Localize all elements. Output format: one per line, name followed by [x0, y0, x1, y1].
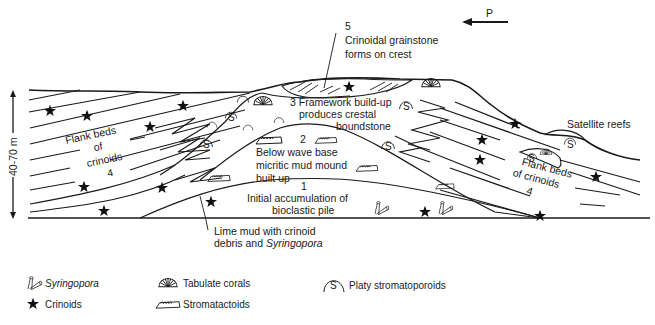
legend-item-syringopora: Syringopora	[28, 277, 99, 290]
svg-text:S: S	[567, 139, 574, 150]
svg-text:produces crestal: produces crestal	[299, 108, 376, 120]
stromatactoid-icon	[156, 302, 180, 308]
svg-text:Below wave base: Below wave base	[256, 146, 338, 158]
legend-item-stromatactoids: Stromatactoids	[156, 299, 250, 310]
svg-text:2: 2	[300, 133, 306, 145]
lime-mud-label: Lime mud with crinoid debris and Syringo…	[214, 225, 323, 249]
svg-text:crinoids: crinoids	[86, 150, 124, 169]
left-flank-beds	[29, 90, 250, 212]
svg-text:S: S	[385, 141, 392, 152]
svg-text:4: 4	[525, 184, 534, 197]
paleocurrent-arrow: P	[462, 7, 508, 26]
paleocurrent-label: P	[486, 7, 493, 19]
svg-text:5: 5	[345, 20, 351, 32]
crinoid-star-icon	[27, 298, 39, 309]
tabulate-coral-icon	[159, 278, 177, 286]
legend-item-crinoids: Crinoids	[27, 298, 82, 310]
stage-2-label: 2 Below wave base micritic mud mound bui…	[256, 133, 347, 184]
svg-text:Stromatactoids: Stromatactoids	[183, 299, 250, 310]
svg-text:built up: built up	[256, 172, 290, 184]
svg-text:of: of	[92, 140, 103, 154]
legend-item-tabulate-corals: Tabulate corals	[159, 278, 250, 289]
svg-text:S: S	[203, 139, 210, 150]
svg-text:4: 4	[106, 166, 114, 179]
legend-item-platy-stromatoporoids: S Platy stromatoporoids	[324, 280, 446, 292]
svg-text:Initial accumulation of: Initial accumulation of	[247, 192, 348, 204]
svg-text:Tabulate corals: Tabulate corals	[183, 278, 250, 289]
svg-text:forms on crest: forms on crest	[345, 48, 412, 60]
svg-text:S: S	[228, 112, 235, 123]
svg-text:debris and Syringopora: debris and Syringopora	[214, 237, 323, 249]
svg-text:Crinoidal grainstone: Crinoidal grainstone	[345, 34, 439, 46]
reef-cross-section-diagram: P 40-70 m	[0, 0, 655, 325]
stage-5-label: 5 Crinoidal grainstone forms on crest	[345, 20, 439, 60]
satellite-reefs-label: Satellite reefs	[567, 118, 631, 130]
svg-text:Lime mud with crinoid: Lime mud with crinoid	[214, 225, 316, 237]
svg-text:boundstone: boundstone	[336, 120, 391, 132]
syringopora-icon	[28, 277, 42, 290]
svg-text:S: S	[330, 280, 337, 291]
stage-3-label: 3 Framework build-up produces crestal bo…	[290, 96, 392, 132]
scale-bar: 40-70 m	[5, 90, 21, 219]
legend: Syringopora Crinoids Tabulate corals Str…	[27, 277, 446, 310]
left-flank-label: Flank beds of crinoids 4	[64, 123, 126, 186]
svg-text:bioclastic pile: bioclastic pile	[272, 204, 335, 216]
svg-text:1: 1	[301, 180, 307, 192]
stage-1-label: 1 Initial accumulation of bioclastic pil…	[247, 180, 348, 216]
svg-text:Syringopora: Syringopora	[45, 278, 99, 289]
svg-text:Platy stromatoporoids: Platy stromatoporoids	[349, 280, 446, 291]
svg-text:micritic mud mound: micritic mud mound	[256, 159, 347, 171]
svg-text:S: S	[403, 101, 410, 112]
syringopora-fossils	[375, 202, 453, 215]
scale-label: 40-70 m	[7, 137, 19, 176]
svg-text:Flank beds: Flank beds	[64, 124, 117, 146]
svg-text:3 Framework build-up: 3 Framework build-up	[290, 96, 392, 108]
svg-text:Crinoids: Crinoids	[45, 299, 82, 310]
